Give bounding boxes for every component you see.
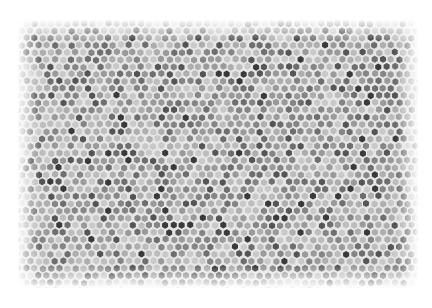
- hex-cell-mosaic: [0, 0, 432, 308]
- mosaic-image: [0, 0, 432, 308]
